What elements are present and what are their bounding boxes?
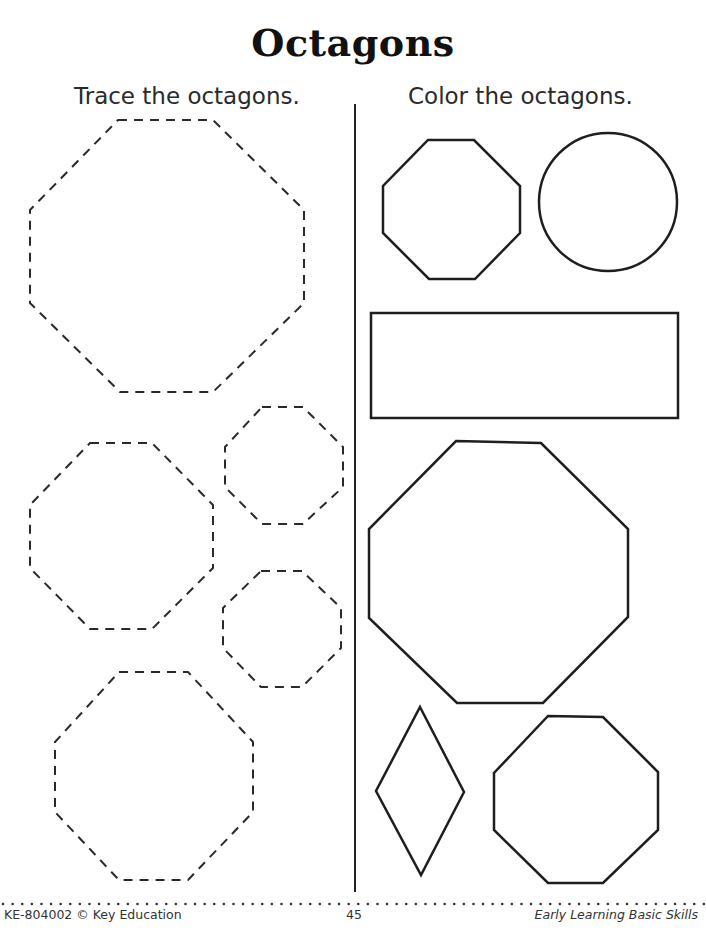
color-circle[interactable] (539, 133, 677, 271)
trace-octagon-medium[interactable] (30, 443, 213, 629)
page-number: 45 (346, 907, 362, 922)
color-octagon-large-center[interactable] (369, 441, 628, 703)
worksheet-shapes (0, 0, 706, 936)
trace-octagon-small-lower[interactable] (223, 571, 341, 687)
trace-octagon-small-upper[interactable] (225, 407, 343, 524)
trace-octagon-large-top[interactable] (30, 120, 304, 392)
color-octagon-top-left[interactable] (383, 140, 520, 279)
trace-octagon-large-bottom[interactable] (55, 672, 253, 880)
footer-copyright: KE-804002 © Key Education (4, 907, 182, 922)
color-diamond[interactable] (376, 707, 464, 875)
color-rectangle[interactable] (371, 313, 678, 418)
color-octagon-bottom-right[interactable] (494, 716, 658, 883)
footer-series-title: Early Learning Basic Skills (535, 907, 698, 922)
